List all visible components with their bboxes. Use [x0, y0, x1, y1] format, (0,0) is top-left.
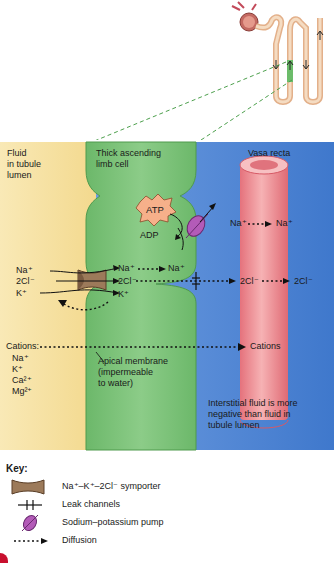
key-item-leak: Leak channels: [0, 496, 334, 514]
pump-icon: [0, 514, 60, 532]
cation-ca: Ca²⁺: [12, 375, 32, 386]
corner-mark: [0, 553, 8, 563]
key-item-diffusion: Diffusion: [0, 532, 334, 550]
cl-interstitial-label: 2Cl⁻: [240, 276, 259, 287]
cl-lumen-label: 2Cl⁻: [16, 276, 35, 287]
na-vasa-label: Na⁺: [276, 218, 293, 229]
cation-mg: Mg²⁺: [12, 386, 33, 397]
leak-channel-icon: [0, 496, 60, 514]
key-item-pump: Sodium–potassium pump: [0, 514, 334, 532]
cation-k: K⁺: [12, 364, 23, 375]
cell-header: Thick ascending limb cell: [96, 148, 161, 170]
key-label: Leak channels: [62, 499, 120, 509]
key-item-symporter: Na⁺–K⁺–2Cl⁻ symporter: [0, 478, 334, 496]
lumen-header: Fluid in tubule lumen: [7, 148, 41, 181]
cl-vasa-label: 2Cl⁻: [294, 276, 313, 287]
na-cell-label: Na⁺: [118, 263, 135, 274]
symporter-icon: [0, 478, 60, 496]
key-label: Na⁺–K⁺–2Cl⁻ symporter: [62, 481, 161, 491]
cations-label: Cations:: [6, 341, 39, 352]
k-lumen-label: K⁺: [16, 288, 27, 299]
atp-label: ATP: [146, 204, 164, 215]
na-interstitial-label: Na⁺: [230, 218, 247, 229]
cl-cell-label: 2Cl⁻: [118, 276, 137, 287]
na-lumen-label: Na⁺: [16, 265, 33, 276]
k-cell-label: K⁺: [118, 289, 129, 300]
interstitial-note: Interstitial fluid is more negative than…: [208, 398, 298, 431]
cations-vasa-label: Cations: [250, 341, 281, 352]
key-label: Sodium–potassium pump: [62, 517, 164, 527]
diffusion-arrow-icon: [0, 532, 60, 550]
vasa-header: Vasa recta: [248, 148, 290, 159]
na-cell-label-2: Na⁺: [168, 263, 185, 274]
key-label: Diffusion: [62, 535, 97, 545]
key-title: Key:: [6, 463, 28, 474]
cation-na: Na⁺: [12, 353, 29, 364]
apical-membrane-label: Apical membrane (impermeable to water): [98, 356, 168, 389]
main-diagram: [0, 0, 334, 460]
adp-label: ADP: [140, 230, 159, 241]
